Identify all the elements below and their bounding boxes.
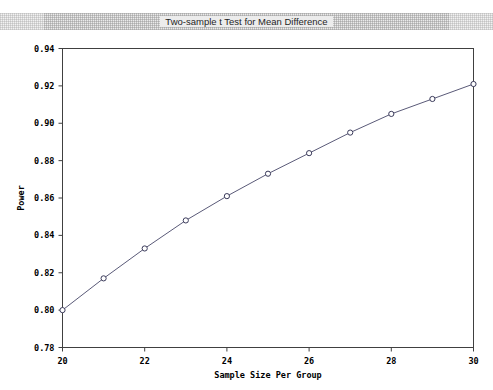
y-axis-title: Power <box>16 185 26 211</box>
series-line-power <box>63 84 474 310</box>
labels-layer: 0.780.800.820.840.860.880.900.920.942022… <box>16 44 479 380</box>
chart-svg: 0.780.800.820.840.860.880.900.920.942022… <box>0 0 493 390</box>
x-tick-label: 24 <box>222 356 232 366</box>
y-tick-label: 0.80 <box>34 305 54 315</box>
data-point-marker <box>389 111 394 116</box>
x-tick-label: 28 <box>386 356 396 366</box>
x-axis-title: Sample Size Per Group <box>214 370 321 380</box>
y-tick-label: 0.84 <box>34 230 54 240</box>
data-point-marker <box>307 151 312 156</box>
plot-frame <box>63 49 474 348</box>
axes-layer <box>59 49 474 352</box>
y-tick-label: 0.78 <box>34 343 54 353</box>
data-point-marker <box>430 96 435 101</box>
plot-container: 0.780.800.820.840.860.880.900.920.942022… <box>0 0 493 390</box>
x-tick-label: 26 <box>304 356 314 366</box>
data-point-marker <box>265 171 270 176</box>
y-tick-label: 0.86 <box>34 193 54 203</box>
data-point-marker <box>348 130 353 135</box>
y-tick-label: 0.92 <box>34 81 54 91</box>
y-tick-label: 0.82 <box>34 268 54 278</box>
x-tick-label: 30 <box>468 356 478 366</box>
data-point-marker <box>142 246 147 251</box>
data-point-marker <box>60 308 65 313</box>
data-point-marker <box>101 276 106 281</box>
y-tick-label: 0.88 <box>34 156 54 166</box>
data-point-marker <box>471 81 476 86</box>
series-layer <box>60 81 476 312</box>
y-tick-label: 0.94 <box>34 44 54 54</box>
data-point-marker <box>224 194 229 199</box>
data-point-marker <box>183 218 188 223</box>
x-tick-label: 20 <box>57 356 67 366</box>
y-tick-label: 0.90 <box>34 118 54 128</box>
chart-window: Two-sample t Test for Mean Difference 0.… <box>0 0 493 390</box>
x-tick-label: 22 <box>140 356 150 366</box>
